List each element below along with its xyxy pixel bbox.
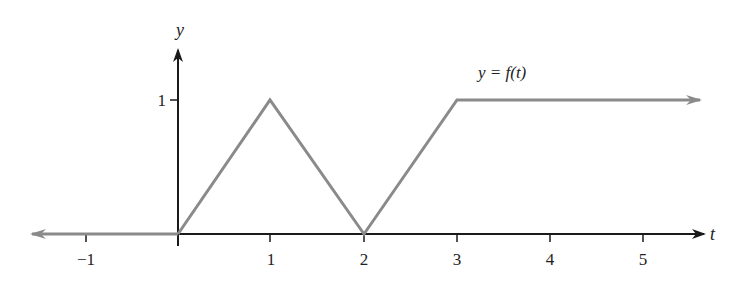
- x-axis: −1 1 2 3 4 5 t: [77, 224, 716, 269]
- x-tick-label: −1: [77, 250, 95, 269]
- piecewise-function-graph: −1 1 2 3 4 5 t 1 y y = f(t): [0, 0, 738, 284]
- x-tick-label: 1: [267, 250, 276, 269]
- y-tick-label: 1: [158, 91, 167, 110]
- x-tick-label: 3: [453, 250, 462, 269]
- x-tick-label: 4: [546, 250, 555, 269]
- x-tick-label: 5: [639, 250, 648, 269]
- function-label: y = f(t): [476, 63, 527, 82]
- y-axis: 1 y: [158, 20, 185, 234]
- y-axis-label: y: [174, 20, 184, 40]
- function-curve: [32, 100, 700, 234]
- piecewise-segments: [178, 100, 700, 234]
- x-axis-label: t: [710, 224, 716, 244]
- x-tick-label: 2: [360, 250, 369, 269]
